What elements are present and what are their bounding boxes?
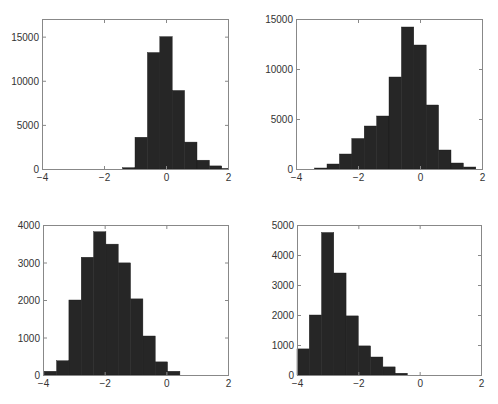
histogram-bar [358, 346, 370, 375]
y-tick-label: 15000 [265, 14, 293, 25]
y-tick-label: 0 [33, 164, 39, 175]
histogram-bar [155, 362, 167, 375]
y-tick-label: 0 [287, 164, 293, 175]
y-tick-label: 0 [288, 370, 294, 381]
histogram-bar [371, 357, 383, 375]
y-tick-label: 3000 [18, 258, 41, 269]
histogram-bar [339, 154, 351, 169]
y-tick-label: 5000 [17, 120, 40, 131]
histogram-bar [315, 168, 327, 169]
x-tick-label: −2 [353, 172, 365, 183]
histogram-bar [395, 373, 407, 375]
x-tick-label: 2 [480, 172, 486, 183]
y-tick-label: 2000 [272, 310, 295, 321]
histogram-figure: −4−202050001000015000 −4−202050001000015… [0, 0, 498, 404]
histogram-bar [352, 139, 364, 170]
histogram-bar [383, 367, 395, 375]
histogram-bar [44, 371, 56, 375]
histogram-bars [297, 233, 407, 376]
x-tick-label: −2 [353, 378, 365, 389]
x-tick-label: 0 [164, 378, 170, 389]
panel-top-right: −4−202050001000015000 [265, 14, 486, 183]
y-tick-label: 1000 [272, 340, 295, 351]
histogram-bar [185, 142, 197, 169]
y-tick-label: 4000 [272, 250, 295, 261]
histogram-bar [81, 257, 93, 375]
histogram-bar [118, 263, 130, 375]
histogram-bar [168, 371, 180, 375]
x-axis-ticks: −4−202 [37, 20, 232, 184]
y-tick-label: 15000 [11, 32, 39, 43]
histogram-bar [463, 167, 475, 169]
y-tick-label: 4000 [18, 220, 41, 231]
y-tick-label: 5000 [272, 220, 295, 231]
histogram-bar [334, 273, 346, 375]
y-tick-label: 2000 [18, 295, 41, 306]
histogram-bar [426, 105, 438, 169]
histogram-bar [322, 233, 334, 376]
histogram-bar [401, 27, 413, 169]
x-tick-label: −2 [99, 172, 111, 183]
panel-bottom-left: −4−20201000200030004000 [18, 220, 232, 389]
histogram-bar [147, 53, 159, 169]
x-tick-label: 2 [226, 172, 232, 183]
x-tick-label: 2 [479, 378, 485, 389]
histogram-bar [439, 150, 451, 169]
histogram-bar [197, 160, 209, 169]
histogram-bar [131, 299, 143, 375]
histogram-bar [160, 37, 172, 169]
histogram-bar [69, 300, 81, 375]
x-tick-label: 0 [164, 172, 170, 183]
histogram-bars [123, 37, 228, 169]
histogram-bar [364, 126, 376, 169]
panel-top-left: −4−202050001000015000 [11, 20, 232, 184]
histogram-bar [135, 137, 147, 169]
histogram-bar [389, 77, 401, 169]
y-tick-label: 1000 [18, 333, 41, 344]
x-tick-label: 2 [226, 378, 232, 389]
y-tick-label: 5000 [271, 114, 294, 125]
y-tick-label: 3000 [272, 280, 295, 291]
histogram-bars [315, 27, 476, 169]
histogram-bar [57, 361, 69, 375]
histogram-bars [44, 232, 180, 375]
histogram-bar [451, 163, 463, 169]
y-tick-label: 0 [34, 370, 40, 381]
y-tick-label: 10000 [11, 76, 39, 87]
histogram-bar [309, 315, 321, 375]
histogram-bar [106, 244, 118, 375]
histogram-bar [143, 336, 155, 375]
histogram-bar [209, 166, 221, 169]
histogram-bar [123, 168, 135, 169]
y-tick-label: 10000 [265, 64, 293, 75]
x-tick-label: 0 [417, 378, 423, 389]
histogram-bar [346, 316, 358, 375]
x-tick-label: 0 [418, 172, 424, 183]
x-tick-label: −2 [99, 378, 111, 389]
histogram-bar [94, 232, 106, 375]
histogram-bar [297, 349, 309, 375]
panel-bottom-right: −4−202010002000300040005000 [272, 220, 485, 389]
histogram-bar [377, 116, 389, 169]
histogram-bar [327, 164, 339, 169]
histogram-bar [172, 90, 184, 169]
histogram-bar [414, 45, 426, 169]
